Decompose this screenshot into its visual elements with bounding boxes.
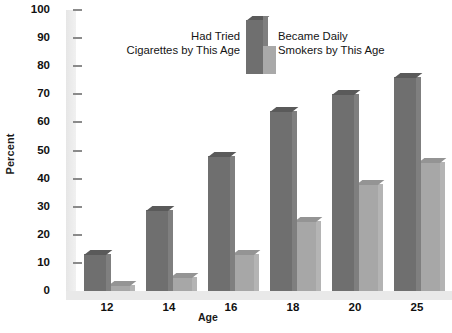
- x-tick-label-12: 12: [87, 301, 127, 313]
- bar-side: [416, 77, 421, 291]
- y-tick-label-30: 30: [20, 201, 50, 213]
- bar-face: [232, 254, 254, 291]
- bar-14-series-0: [146, 210, 168, 291]
- y-tick-label-100: 100: [20, 4, 50, 16]
- y-tick-label-90: 90: [20, 32, 50, 44]
- x-axis-title: Age: [198, 311, 218, 323]
- bar-face: [356, 184, 378, 291]
- bar-12-series-1: [108, 285, 130, 291]
- y-axis-ticks: 0102030405060708090100: [18, 0, 50, 333]
- bar-side: [378, 184, 383, 291]
- bar-face: [394, 77, 416, 291]
- bar-side: [192, 277, 197, 291]
- bar-20-series-1: [356, 184, 378, 291]
- y-tick-label-40: 40: [20, 173, 50, 185]
- bar-face: [418, 162, 440, 291]
- bar-side: [230, 156, 235, 291]
- bar-side: [292, 111, 297, 291]
- bar-side: [168, 210, 173, 291]
- bar-12-series-0: [84, 254, 106, 291]
- y-axis-title: Percent: [4, 122, 16, 186]
- legend-swatch-group: [246, 16, 274, 74]
- bar-face: [146, 210, 168, 291]
- bar-chart: Percent 0102030405060708090100 Had Tried…: [0, 0, 452, 333]
- bar-16-series-1: [232, 254, 254, 291]
- y-tick-label-60: 60: [20, 116, 50, 128]
- bar-18-series-0: [270, 111, 292, 291]
- legend: Had Tried Cigarettes by This Age Became …: [118, 16, 438, 78]
- legend-label-became-daily-line2: Smokers by This Age: [278, 44, 385, 56]
- y-tick-label-10: 10: [20, 257, 50, 269]
- bar-18-series-1: [294, 221, 316, 291]
- bar-face: [294, 221, 316, 291]
- bar-face: [208, 156, 230, 291]
- bar-face: [332, 94, 354, 291]
- x-tick-label-25: 25: [397, 301, 437, 313]
- bar-25-series-0: [394, 77, 416, 291]
- x-tick-label-14: 14: [149, 301, 189, 313]
- y-tick-label-0: 0: [20, 285, 50, 297]
- bar-14-series-1: [170, 277, 192, 291]
- legend-label-had-tried-line2: Cigarettes by This Age: [127, 44, 240, 56]
- bar-side: [130, 285, 135, 291]
- x-tick-label-18: 18: [273, 301, 313, 313]
- y-tick-label-80: 80: [20, 60, 50, 72]
- legend-label-became-daily-line1: Became Daily: [278, 30, 348, 42]
- bar-face: [270, 111, 292, 291]
- y-tick-label-20: 20: [20, 229, 50, 241]
- y-tick-label-70: 70: [20, 88, 50, 100]
- legend-label-had-tried: Had Tried Cigarettes by This Age: [118, 30, 240, 57]
- bar-20-series-0: [332, 94, 354, 291]
- bar-face: [170, 277, 192, 291]
- legend-swatch-dark: [246, 20, 263, 74]
- x-axis-labels: 121416182025: [76, 301, 448, 319]
- bar-side: [106, 254, 111, 291]
- legend-label-had-tried-line1: Had Tried: [191, 30, 240, 42]
- legend-swatch-light: [263, 46, 276, 74]
- bar-face: [84, 254, 106, 291]
- bar-side: [316, 221, 321, 291]
- bar-side: [440, 162, 445, 291]
- bar-16-series-0: [208, 156, 230, 291]
- legend-label-became-daily: Became Daily Smokers by This Age: [278, 30, 438, 57]
- bar-face: [108, 285, 130, 291]
- bar-25-series-1: [418, 162, 440, 291]
- bar-side: [354, 94, 359, 291]
- bar-side: [254, 254, 259, 291]
- x-tick-label-20: 20: [335, 301, 375, 313]
- y-tick-label-50: 50: [20, 145, 50, 157]
